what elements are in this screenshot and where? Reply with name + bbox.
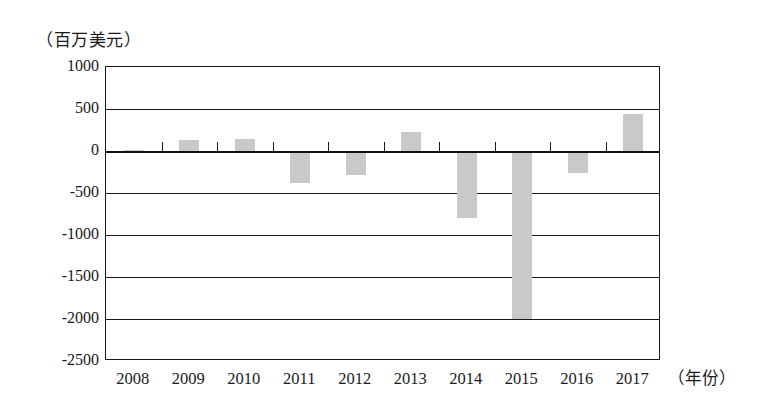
x-axis-tick-label: 2014 [436,368,496,390]
y-axis-tick-label: 500 [7,100,99,116]
x-axis-tick-mark [162,142,163,151]
bar-2015 [512,151,532,319]
gridline [106,235,659,236]
bar-2017 [623,114,643,151]
y-axis-tick-labels: 10005000-500-1000-1500-2000-2500 [0,66,99,360]
x-axis-tick-label: 2016 [547,368,607,390]
x-axis-tick-mark [217,142,218,151]
x-axis-tick-label: 2012 [325,368,385,390]
bar-2014 [457,151,477,218]
bar-2010 [235,139,255,151]
gridline [106,319,659,320]
y-axis-tick-label: -2000 [7,310,99,326]
x-axis-tick-mark [550,142,551,151]
bar-2011 [290,151,310,183]
x-axis-tick-label: 2010 [214,368,274,390]
y-axis-tick-label: 1000 [7,58,99,74]
y-axis-unit-label: （百万美元） [36,26,141,51]
bar-2013 [401,132,421,151]
x-axis-tick-label: 2009 [158,368,218,390]
y-axis-tick-label: -500 [7,184,99,200]
bar-2016 [568,151,588,173]
x-axis-tick-label: 2015 [491,368,551,390]
bar-2009 [179,140,199,151]
gridline [106,193,659,194]
x-axis-tick-mark [439,142,440,151]
x-axis-tick-label: 2013 [380,368,440,390]
x-axis-tick-mark [384,142,385,151]
zero-axis-line [106,151,659,153]
y-axis-tick-label: -2500 [7,352,99,368]
x-axis-tick-label: 2011 [269,368,329,390]
x-axis-tick-mark [328,142,329,151]
y-axis-tick-label: -1000 [7,226,99,242]
x-axis-tick-mark [273,142,274,151]
bar-2012 [346,151,366,175]
y-axis-tick-label: -1500 [7,268,99,284]
x-axis-tick-mark [495,142,496,151]
x-axis-tick-labels: 2008200920102011201220132014201520162017 [105,368,660,394]
x-axis-unit-label: （年份） [668,368,736,390]
plot-area [105,66,660,360]
x-axis-tick-label: 2017 [602,368,662,390]
y-axis-tick-label: 0 [7,142,99,158]
bar-chart: （百万美元） 10005000-500-1000-1500-2000-2500 … [0,0,770,414]
x-axis-tick-mark [606,142,607,151]
gridline [106,277,659,278]
x-axis-tick-label: 2008 [103,368,163,390]
gridline [106,109,659,110]
